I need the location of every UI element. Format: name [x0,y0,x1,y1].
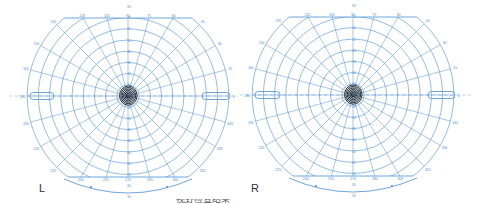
svg-text:30: 30 [352,127,356,131]
svg-text:150: 150 [258,41,264,45]
svg-text:210: 210 [33,147,39,151]
right-eye-visual-field: 0153045607590105120135150165180195210225… [238,0,476,204]
svg-text:0: 0 [233,95,235,99]
svg-text:30: 30 [127,61,131,65]
svg-text:70: 70 [127,173,131,177]
svg-text:300: 300 [397,177,403,181]
svg-text:20: 20 [127,117,131,121]
svg-text:80: 80 [127,184,131,188]
svg-text:20: 20 [352,116,356,120]
svg-text:165: 165 [248,66,254,70]
svg-text:20: 20 [127,72,131,76]
svg-text:285: 285 [147,178,153,182]
svg-text:50: 50 [352,38,356,42]
svg-text:105: 105 [104,14,110,18]
svg-text:30: 30 [352,60,356,64]
svg-text:80: 80 [352,4,356,8]
svg-text:330: 330 [442,146,448,150]
svg-text:150: 150 [33,42,39,46]
svg-text:15: 15 [453,66,457,70]
right-eye-chart: 0153045607590105120135150165180195210225… [238,0,476,204]
svg-text:270: 270 [350,177,356,181]
footer-text: 视野检查结果 [176,199,230,204]
svg-text:50: 50 [127,39,131,43]
svg-text:120: 120 [79,14,85,18]
svg-text:315: 315 [200,169,206,173]
svg-text:30: 30 [443,41,447,45]
svg-text:180: 180 [19,95,25,99]
svg-text:270: 270 [125,178,131,182]
svg-text:330: 330 [217,147,223,151]
footer-caption: 视野检查结果 [0,199,477,204]
svg-text:10: 10 [127,106,131,110]
svg-text:40: 40 [127,139,131,143]
left-eye-label: L [39,182,45,194]
svg-text:285: 285 [372,177,378,181]
svg-text:70: 70 [127,16,131,20]
svg-text:20: 20 [352,71,356,75]
svg-text:240: 240 [78,178,84,182]
svg-text:70: 70 [352,172,356,176]
svg-text:345: 345 [227,122,233,126]
svg-text:45: 45 [201,20,205,24]
svg-text:60: 60 [127,162,131,166]
svg-text:90: 90 [352,194,356,198]
svg-text:45: 45 [426,19,430,23]
svg-text:225: 225 [50,169,56,173]
svg-text:135: 135 [50,20,56,24]
svg-text:40: 40 [352,138,356,142]
svg-text:240: 240 [303,177,309,181]
svg-text:300: 300 [172,178,178,182]
svg-text:60: 60 [172,14,176,18]
svg-text:225: 225 [275,168,281,172]
svg-text:105: 105 [329,13,335,17]
svg-text:40: 40 [352,49,356,53]
svg-text:50: 50 [352,150,356,154]
svg-text:210: 210 [258,146,264,150]
svg-text:50: 50 [127,151,131,155]
svg-text:60: 60 [352,161,356,165]
svg-text:255: 255 [103,178,109,182]
svg-text:75: 75 [147,14,151,18]
svg-text:195: 195 [23,122,29,126]
svg-text:315: 315 [425,168,431,172]
svg-text:30: 30 [127,128,131,132]
svg-text:60: 60 [127,27,131,31]
svg-text:70: 70 [352,15,356,19]
svg-text:195: 195 [248,121,254,125]
left-eye-chart: 0153045607590105120135150165180195210225… [0,0,238,204]
svg-text:80: 80 [352,183,356,187]
svg-text:0: 0 [458,94,460,98]
svg-text:10: 10 [352,105,356,109]
svg-text:180: 180 [244,94,250,98]
svg-text:15: 15 [228,67,232,71]
left-eye-visual-field: 0153045607590105120135150165180195210225… [0,0,238,204]
svg-text:165: 165 [23,67,29,71]
svg-text:135: 135 [275,19,281,23]
svg-text:80: 80 [127,5,131,9]
svg-text:120: 120 [304,13,310,17]
svg-text:60: 60 [352,26,356,30]
svg-text:75: 75 [372,13,376,17]
svg-text:60: 60 [397,13,401,17]
svg-text:40: 40 [127,50,131,54]
right-eye-label: R [251,182,259,194]
svg-text:345: 345 [452,121,458,125]
svg-text:255: 255 [328,177,334,181]
svg-text:30: 30 [218,42,222,46]
